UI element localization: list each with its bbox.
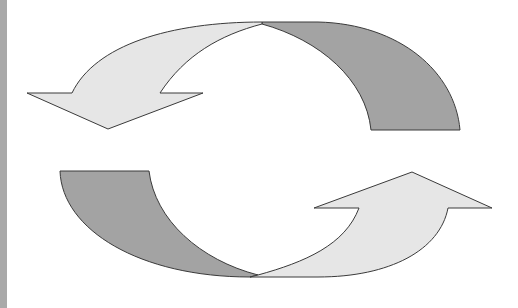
bottom-arrow-dark-tail [60,171,258,277]
cycle-arrows-graphic [0,0,518,308]
top-arrow-dark-tail [262,22,460,130]
top-arrow-light-head [27,22,262,129]
bottom-arrow-light-head [250,172,492,277]
cycle-diagram [0,0,518,308]
